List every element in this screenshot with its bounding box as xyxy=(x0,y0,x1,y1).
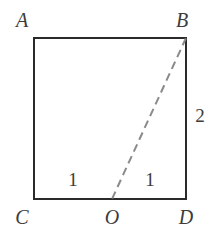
vertex-point-C xyxy=(33,198,35,200)
vertex-label-a: A xyxy=(16,10,28,30)
vertex-point-O xyxy=(111,198,113,200)
measure-label-right-side: 2 xyxy=(195,106,205,125)
figure-canvas xyxy=(0,0,217,238)
vertex-label-c: C xyxy=(15,207,28,227)
measure-label-segment-co: 1 xyxy=(68,170,78,189)
vertex-label-d: D xyxy=(179,207,193,227)
vertex-point-D xyxy=(185,198,187,200)
vertex-label-b: B xyxy=(176,10,188,30)
diagram-background xyxy=(0,0,217,238)
measure-label-segment-od: 1 xyxy=(145,170,155,189)
vertex-point-A xyxy=(33,37,35,39)
geometry-diagram: A B C D O 2 1 1 xyxy=(0,0,217,238)
vertex-label-o: O xyxy=(105,207,119,227)
vertex-point-B xyxy=(185,37,187,39)
